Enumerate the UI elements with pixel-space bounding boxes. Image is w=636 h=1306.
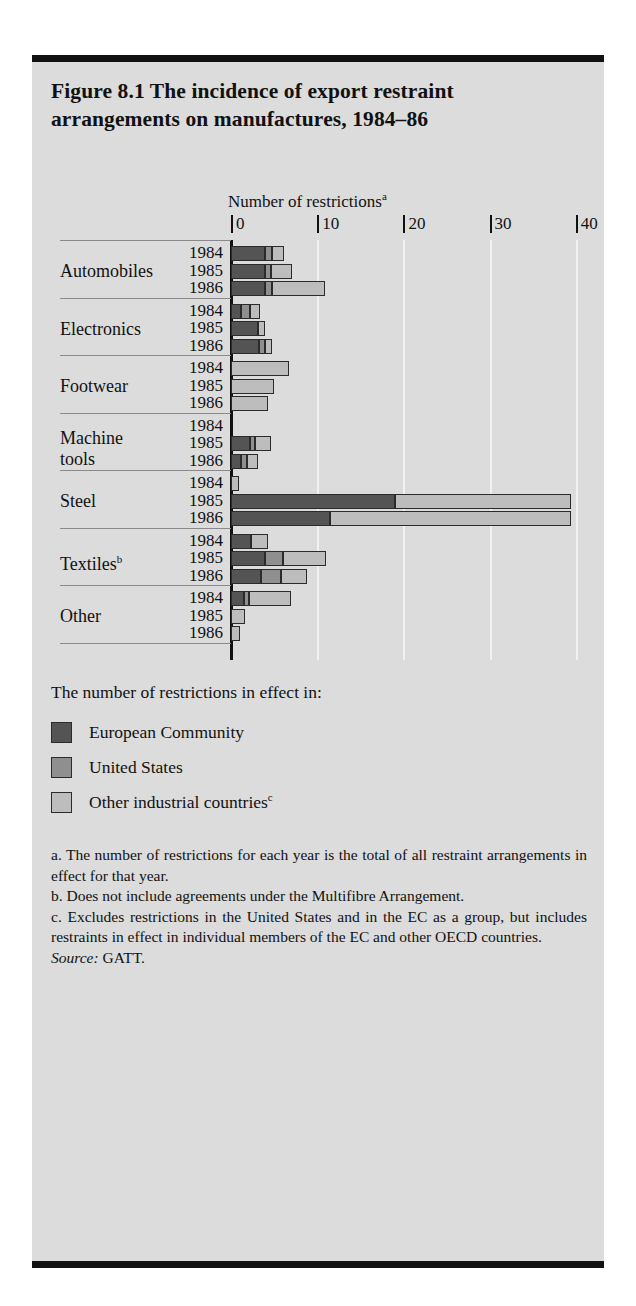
bar-segment — [251, 534, 268, 549]
bar-segment — [231, 494, 395, 509]
bar-segment — [231, 511, 330, 526]
legend-swatch — [51, 757, 72, 778]
bar-segment — [231, 246, 265, 261]
category-label-text: Textiles — [60, 554, 117, 574]
x-tick-label: 20 — [408, 214, 425, 234]
group-separator — [60, 470, 231, 471]
bar — [231, 396, 268, 411]
bar-segment — [231, 436, 250, 451]
category-label-superscript: b — [117, 553, 123, 565]
year-label: 1986 — [169, 451, 223, 471]
bar-segment — [271, 264, 293, 279]
bar — [231, 246, 284, 261]
category-label: Machinetools — [60, 428, 170, 470]
category-label: Automobiles — [60, 261, 153, 282]
note-a: a. The number of restrictions for each y… — [51, 845, 587, 886]
group-separator — [60, 585, 231, 586]
bar-segment — [231, 454, 241, 469]
bar — [231, 321, 265, 336]
category-label-line: Machine — [60, 428, 123, 448]
bar-segment — [231, 321, 258, 336]
bar-segment — [250, 304, 260, 319]
bar-segment — [255, 436, 271, 451]
bar-segment — [231, 551, 265, 566]
note-b: b. Does not include agreements under the… — [51, 886, 587, 907]
figure-title: Figure 8.1 The incidence of export restr… — [51, 77, 571, 133]
category-label: Steel — [60, 491, 96, 512]
category-label-text: Other — [60, 606, 101, 626]
bar-segment — [249, 591, 291, 606]
legend-item: European Community — [51, 717, 501, 747]
plot-area: Automobiles198419851986Electronics198419… — [32, 240, 604, 660]
bar — [231, 476, 239, 491]
x-tick-mark — [490, 215, 492, 233]
bar-segment — [231, 569, 261, 584]
x-tick-labels: 010203040 — [32, 214, 604, 236]
bar — [231, 304, 260, 319]
gridline — [317, 240, 319, 660]
bar-segment — [231, 476, 239, 491]
bar — [231, 534, 268, 549]
figure-panel: Figure 8.1 The incidence of export restr… — [32, 55, 604, 1268]
bar-segment — [258, 321, 266, 336]
legend-label: European Community — [89, 722, 244, 742]
bar — [231, 281, 325, 296]
bar-segment — [395, 494, 572, 509]
legend-label: Other industrial countries — [89, 792, 268, 812]
bar-segment — [231, 304, 241, 319]
axis-title: Number of restrictionsa — [228, 190, 387, 212]
bar — [231, 494, 571, 509]
x-tick-label: 0 — [236, 214, 245, 234]
bar-segment — [231, 534, 251, 549]
bar — [231, 361, 289, 376]
group-separator — [60, 528, 231, 529]
bar — [231, 591, 291, 606]
bar-segment — [231, 591, 244, 606]
legend-label: United States — [89, 757, 183, 777]
top-rule — [32, 55, 604, 62]
category-label-line: tools — [60, 449, 95, 469]
bar-segment — [231, 396, 268, 411]
bar-segment — [265, 551, 282, 566]
bar — [231, 609, 245, 624]
bar-segment — [231, 379, 274, 394]
year-label: 1986 — [169, 393, 223, 413]
category-label: Textilesb — [60, 549, 122, 575]
group-separator — [60, 643, 231, 644]
bar-segment — [231, 626, 240, 641]
legend-label-wrap: European Community — [89, 722, 244, 743]
bar-segment — [283, 551, 326, 566]
x-tick-label: 30 — [495, 214, 512, 234]
category-label-text: Automobiles — [60, 261, 153, 281]
bar-segment — [330, 511, 571, 526]
bar — [231, 626, 240, 641]
category-label-text: Steel — [60, 491, 96, 511]
gridline — [403, 240, 405, 660]
category-label-text: Electronics — [60, 319, 141, 339]
bar — [231, 339, 272, 354]
bar — [231, 569, 307, 584]
bar — [231, 511, 571, 526]
source-value: GATT. — [103, 949, 145, 966]
legend-swatch — [51, 722, 72, 743]
bar — [231, 551, 326, 566]
bar-segment — [261, 569, 281, 584]
year-label: 1986 — [169, 336, 223, 356]
legend: The number of restrictions in effect in:… — [51, 682, 501, 822]
legend-title: The number of restrictions in effect in: — [51, 682, 501, 703]
note-source: Source: GATT. — [51, 948, 587, 969]
axis-title-text: Number of restrictions — [228, 192, 382, 211]
group-separator — [60, 298, 231, 299]
legend-label-wrap: Other industrial countriesc — [89, 791, 273, 813]
bar-segment — [281, 569, 307, 584]
bottom-rule — [32, 1261, 604, 1268]
legend-item: United States — [51, 752, 501, 782]
bar — [231, 379, 274, 394]
x-tick-mark — [231, 215, 233, 233]
bar — [231, 264, 292, 279]
category-label-text: Footwear — [60, 376, 128, 396]
group-separator — [60, 355, 231, 356]
note-c: c. Excludes restrictions in the United S… — [51, 907, 587, 948]
legend-rows: European CommunityUnited StatesOther ind… — [51, 717, 501, 817]
bar-segment — [247, 454, 257, 469]
